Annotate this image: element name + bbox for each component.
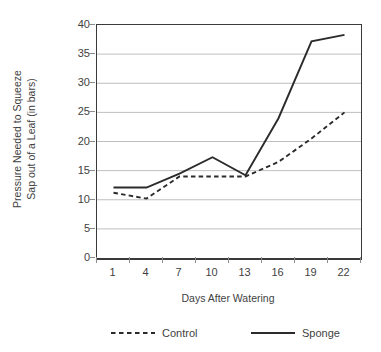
legend-solid-line-icon bbox=[251, 328, 295, 338]
chart-legend: Control Sponge bbox=[96, 325, 368, 345]
x-tick-mark bbox=[96, 257, 97, 263]
legend-item-sponge: Sponge bbox=[251, 325, 340, 341]
y-tick-mark bbox=[89, 141, 95, 142]
x-tick-mark bbox=[327, 257, 328, 263]
x-axis-title: Days After Watering bbox=[96, 292, 360, 304]
y-tick-label: 5 bbox=[52, 222, 90, 234]
line-chart: Pressure Needed to Squeeze Sap out of a … bbox=[0, 0, 381, 352]
y-axis-tick-marks bbox=[89, 24, 96, 258]
y-axis-tick-labels: 0510152025303540 bbox=[48, 0, 90, 352]
y-tick-mark bbox=[89, 24, 95, 25]
x-tick-mark bbox=[129, 257, 130, 263]
x-tick-mark bbox=[261, 257, 262, 263]
y-tick-label: 40 bbox=[52, 18, 90, 30]
y-tick-label: 35 bbox=[52, 47, 90, 59]
x-tick-mark bbox=[195, 257, 196, 263]
y-tick-label: 15 bbox=[52, 164, 90, 176]
y-tick-label: 10 bbox=[52, 193, 90, 205]
y-tick-mark bbox=[89, 170, 95, 171]
series-lines bbox=[114, 35, 345, 199]
series-line-control bbox=[114, 112, 345, 198]
gridlines bbox=[97, 54, 361, 229]
x-tick-label: 22 bbox=[324, 266, 364, 278]
y-axis-title: Pressure Needed to Squeeze Sap out of a … bbox=[4, 18, 44, 260]
x-tick-mark bbox=[294, 257, 295, 263]
y-axis-title-line-2: Sap out of a Leaf (in bars) bbox=[24, 70, 38, 208]
legend-label-sponge: Sponge bbox=[302, 327, 340, 339]
plot-svg bbox=[97, 25, 361, 258]
x-axis-tick-labels: 1471013161922 bbox=[96, 266, 360, 284]
y-tick-label: 0 bbox=[52, 251, 90, 263]
legend-item-control: Control bbox=[111, 325, 197, 341]
x-tick-mark bbox=[228, 257, 229, 263]
y-tick-mark bbox=[89, 199, 95, 200]
x-tick-mark bbox=[162, 257, 163, 263]
x-axis-tick-marks bbox=[96, 257, 362, 264]
y-tick-mark bbox=[89, 228, 95, 229]
y-tick-mark bbox=[89, 111, 95, 112]
y-tick-mark bbox=[89, 53, 95, 54]
legend-label-control: Control bbox=[162, 327, 197, 339]
plot-area bbox=[96, 24, 362, 260]
y-axis-title-line-1: Pressure Needed to Squeeze bbox=[11, 70, 25, 208]
x-tick-mark bbox=[360, 257, 361, 263]
series-line-sponge bbox=[114, 35, 345, 188]
y-tick-mark bbox=[89, 82, 95, 83]
y-tick-label: 25 bbox=[52, 105, 90, 117]
y-tick-mark bbox=[89, 257, 95, 258]
legend-dashed-line-icon bbox=[111, 328, 155, 338]
y-tick-label: 30 bbox=[52, 76, 90, 88]
y-tick-label: 20 bbox=[52, 135, 90, 147]
